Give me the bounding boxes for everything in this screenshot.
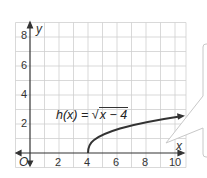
- x-tick-4: 4: [79, 157, 95, 168]
- callout-bubble: [166, 44, 207, 157]
- eq-prefix: h(x) =: [56, 108, 92, 122]
- axes: [16, 22, 184, 166]
- radical-sign-icon: √: [92, 108, 99, 122]
- x-tick-6: 6: [108, 157, 124, 168]
- eq-radicand: x − 4: [99, 107, 128, 122]
- y-tick-8: 8: [17, 30, 27, 41]
- x-tick-10: 10: [166, 157, 184, 168]
- function-equation-label: h(x) = √x − 4: [56, 108, 128, 122]
- origin-label: O: [19, 156, 28, 168]
- y-tick-2: 2: [17, 118, 27, 129]
- x-tick-2: 2: [50, 157, 66, 168]
- curve-arrow-icon: [177, 113, 185, 120]
- y-tick-6: 6: [17, 60, 27, 71]
- x-axis-label: x: [176, 140, 182, 152]
- grid: [16, 23, 187, 168]
- y-tick-4: 4: [17, 89, 27, 100]
- y-axis-label: y: [36, 23, 42, 35]
- x-tick-8: 8: [137, 157, 153, 168]
